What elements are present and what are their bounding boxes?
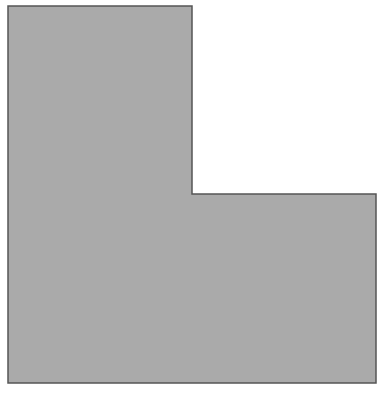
diagram-canvas bbox=[0, 0, 383, 397]
